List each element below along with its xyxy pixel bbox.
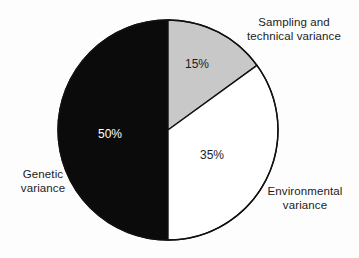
pie-label-environmental: Environmental variance: [252, 185, 358, 212]
pie-label-sampling: Sampling and technical variance: [232, 16, 356, 43]
pie-slice-value-sampling: 15%: [185, 57, 209, 71]
pie-label-genetic-line1: Genetic: [6, 168, 80, 182]
pie-label-sampling-line1: Sampling and: [232, 16, 356, 30]
pie-label-environmental-line2: variance: [252, 199, 358, 213]
pie-label-environmental-line1: Environmental: [252, 185, 358, 199]
pie-chart-figure: 50% 15% 35% Sampling and technical varia…: [0, 0, 359, 258]
pie-label-genetic: Genetic variance: [6, 168, 80, 195]
pie-label-sampling-line2: technical variance: [232, 30, 356, 44]
pie-slice-value-genetic: 50%: [98, 127, 122, 141]
pie-slice-value-environmental: 35%: [200, 148, 224, 162]
pie-label-genetic-line2: variance: [6, 182, 80, 196]
